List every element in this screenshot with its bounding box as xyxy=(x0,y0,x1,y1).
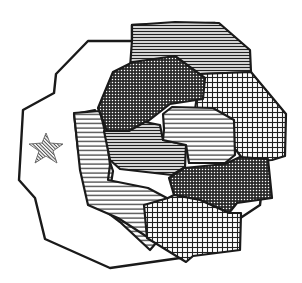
map-illustration xyxy=(0,0,302,283)
capital-star-icon xyxy=(29,133,63,163)
territory-map xyxy=(0,0,302,283)
